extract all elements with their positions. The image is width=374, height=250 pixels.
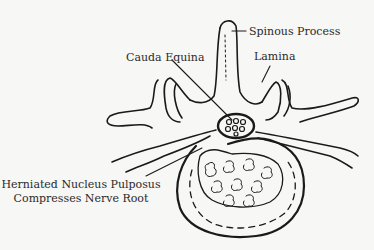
- label-herniated-line1: Herniated Nucleus Pulposus: [0, 178, 162, 191]
- label-herniated-line2: Compresses Nerve Root: [0, 192, 162, 205]
- label-lamina: Lamina: [254, 50, 295, 63]
- label-spinous-process: Spinous Process: [249, 25, 340, 38]
- lamina-leader: [262, 66, 270, 82]
- label-cauda-equina: Cauda Equina: [126, 51, 204, 64]
